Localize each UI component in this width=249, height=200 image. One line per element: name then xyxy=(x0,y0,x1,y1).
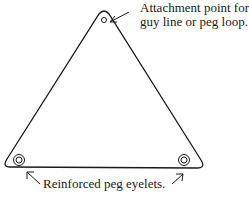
right-peg-eyelet-icon xyxy=(179,155,190,166)
triangle-tarp-outline xyxy=(5,11,203,168)
apex-attachment-ring-icon xyxy=(102,18,107,23)
apex-arrow-icon xyxy=(110,12,129,22)
left-eyelet-arrow-icon xyxy=(27,172,40,184)
apex-annotation: Attachment point for guy line or peg loo… xyxy=(140,1,249,29)
diagram-canvas xyxy=(0,0,249,200)
apex-annotation-line-1: Attachment point for xyxy=(140,1,249,15)
eyelet-annotation: Reinforced peg eyelets. xyxy=(43,177,165,191)
left-peg-eyelet-icon xyxy=(14,155,25,166)
right-eyelet-arrow-icon xyxy=(172,174,183,184)
apex-annotation-line-2: guy line or peg loop. xyxy=(140,15,249,29)
